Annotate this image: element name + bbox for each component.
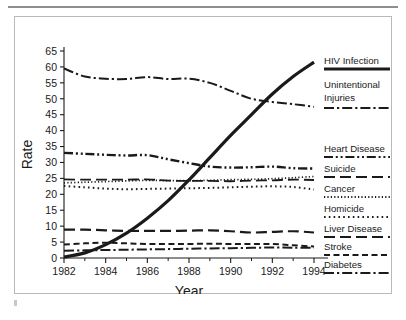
y-tick-label: 20	[45, 188, 57, 200]
legend-label: Unintentional	[324, 79, 380, 90]
y-tick-label: 5	[51, 236, 57, 248]
y-tick-label: 30	[45, 156, 57, 168]
figure-page: 05101520253035404550556065 1982198419861…	[0, 0, 406, 320]
y-tick-label: 15	[45, 204, 57, 216]
y-tick-label: 65	[45, 45, 57, 57]
legend-label: Homicide	[324, 203, 364, 214]
y-axis-title: Rate	[19, 140, 35, 170]
x-tick-label: 1992	[261, 265, 285, 277]
data-series-group	[64, 62, 314, 257]
y-tick-label: 25	[45, 172, 57, 184]
top-horizontal-rule	[8, 6, 398, 8]
x-tick-label: 1982	[52, 265, 76, 277]
y-tick-label: 10	[45, 220, 57, 232]
series-line-heart-disease	[64, 153, 314, 169]
legend-label: Cancer	[324, 183, 356, 194]
legend-label: Diabetes	[324, 259, 362, 270]
series-line-hiv-infection	[64, 62, 314, 257]
y-tick-label: 60	[45, 61, 57, 73]
line-chart: 05101520253035404550556065 1982198419861…	[14, 16, 392, 294]
legend-label: HIV Infection	[324, 55, 379, 66]
page-artifact-mark	[14, 300, 17, 306]
chart-legend: HIV InfectionUnintentionalInjuriesHeart …	[324, 55, 390, 273]
y-tick-label: 55	[45, 77, 57, 89]
x-axis-tick-group: 1982198419861988199019921994	[52, 258, 326, 277]
x-tick-label: 1990	[219, 265, 243, 277]
y-tick-label: 0	[51, 252, 57, 264]
legend-label: Suicide	[324, 163, 355, 174]
series-line-homicide	[64, 186, 314, 190]
y-axis-tick-group: 05101520253035404550556065	[45, 45, 64, 264]
series-line-liver-disease	[64, 230, 314, 233]
x-tick-label: 1984	[94, 265, 118, 277]
legend-label: Heart Disease	[324, 143, 385, 154]
x-axis-title: Year	[175, 283, 204, 294]
legend-label: Injuries	[324, 92, 355, 103]
y-tick-label: 35	[45, 140, 57, 152]
y-tick-label: 40	[45, 124, 57, 136]
legend-label: Stroke	[324, 241, 352, 252]
y-tick-label: 50	[45, 93, 57, 105]
y-tick-label: 45	[45, 108, 57, 120]
series-line-unintentional-injuries	[64, 69, 314, 107]
legend-label: Liver Disease	[324, 223, 382, 234]
x-tick-label: 1994	[302, 265, 326, 277]
x-tick-label: 1988	[177, 265, 201, 277]
x-tick-label: 1986	[136, 265, 160, 277]
